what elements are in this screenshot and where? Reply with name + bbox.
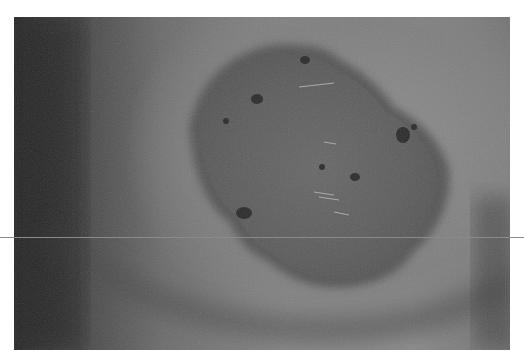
horizontal-guide-line	[0, 237, 524, 238]
photograph	[14, 17, 510, 350]
photo-content	[14, 17, 510, 350]
